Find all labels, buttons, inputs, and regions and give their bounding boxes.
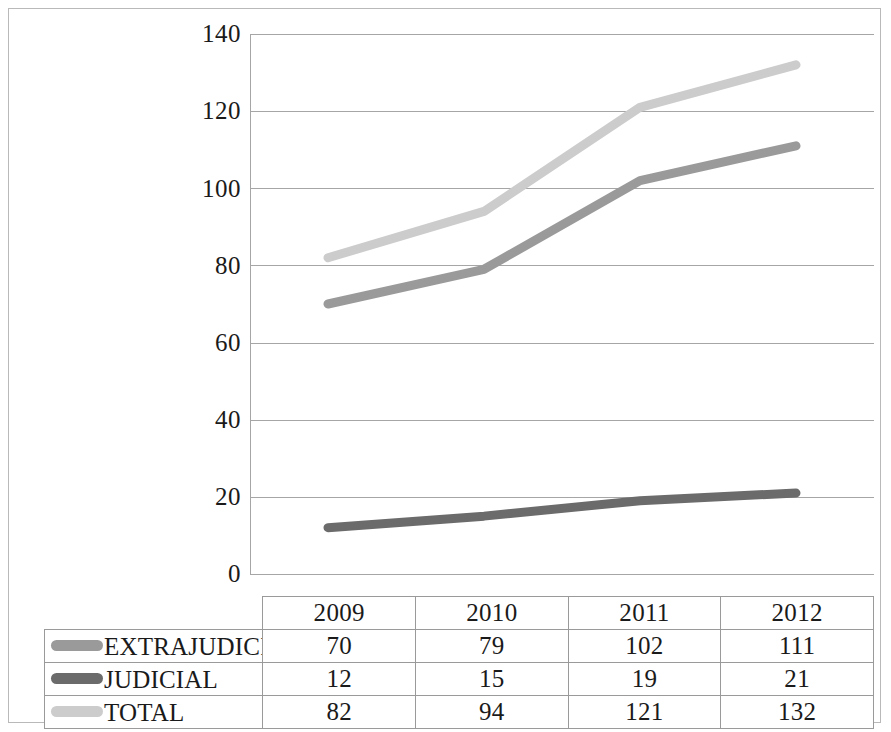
legend-entry-extrajudicia: EXTRAJUDICIA	[45, 630, 263, 663]
chart-data-table: 2009 2010 2011 2012 EXTRAJUDICIA 70 79 1…	[44, 596, 874, 729]
table-row: TOTAL 82 94 121 132	[45, 696, 874, 729]
column-header-2010: 2010	[416, 597, 569, 630]
series-lines	[250, 34, 874, 575]
legend-swatch-icon	[51, 640, 103, 651]
cell-judicial-2012: 21	[721, 663, 874, 696]
y-tick-100: 100	[121, 176, 241, 201]
legend-label-extrajudicia: EXTRAJUDICIA	[104, 633, 263, 661]
line-series-extrajudicia	[328, 146, 796, 304]
line-series-judicial	[328, 493, 796, 528]
cell-judicial-2009: 12	[263, 663, 416, 696]
cell-total-2009: 82	[263, 696, 416, 729]
chart-figure: 140 120 100 80 60 40 20 0	[8, 8, 881, 723]
table-row: JUDICIAL 12 15 19 21	[45, 663, 874, 696]
y-tick-0: 0	[121, 561, 241, 586]
y-axis-tick-labels: 140 120 100 80 60 40 20 0	[119, 9, 241, 579]
cell-extrajudicia-2009: 70	[263, 630, 416, 663]
legend-entry-total: TOTAL	[45, 696, 263, 729]
table-row: EXTRAJUDICIA 70 79 102 111	[45, 630, 874, 663]
cell-total-2010: 94	[416, 696, 569, 729]
cell-judicial-2010: 15	[416, 663, 569, 696]
legend-entry-judicial: JUDICIAL	[45, 663, 263, 696]
table-corner-cell	[45, 597, 263, 630]
column-header-2012: 2012	[721, 597, 874, 630]
cell-extrajudicia-2012: 111	[721, 630, 874, 663]
legend-swatch-icon	[51, 673, 103, 684]
cell-total-2012: 132	[721, 696, 874, 729]
column-header-2011: 2011	[568, 597, 721, 630]
legend-label-total: TOTAL	[104, 699, 184, 727]
cell-total-2011: 121	[568, 696, 721, 729]
cell-extrajudicia-2010: 79	[416, 630, 569, 663]
plot-region: 140 120 100 80 60 40 20 0	[9, 9, 882, 579]
y-tick-120: 120	[121, 98, 241, 123]
table-header-row: 2009 2010 2011 2012	[45, 597, 874, 630]
y-tick-140: 140	[121, 21, 241, 46]
legend-label-judicial: JUDICIAL	[104, 666, 218, 694]
y-tick-60: 60	[121, 330, 241, 355]
y-tick-20: 20	[121, 484, 241, 509]
legend-swatch-icon	[51, 706, 103, 717]
cell-extrajudicia-2011: 102	[568, 630, 721, 663]
column-header-2009: 2009	[263, 597, 416, 630]
plot-area	[250, 34, 874, 574]
y-tick-80: 80	[121, 253, 241, 278]
cell-judicial-2011: 19	[568, 663, 721, 696]
y-tick-40: 40	[121, 407, 241, 432]
